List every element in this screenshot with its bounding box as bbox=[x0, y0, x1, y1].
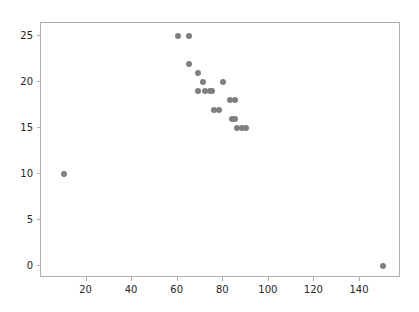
x-tick-mark bbox=[131, 277, 132, 281]
data-point bbox=[186, 61, 192, 67]
x-tick-mark bbox=[268, 277, 269, 281]
data-point bbox=[186, 33, 192, 39]
data-point bbox=[232, 97, 238, 103]
y-tick-label: 20 bbox=[20, 75, 33, 86]
data-points-layer bbox=[41, 23, 399, 276]
x-tick-label: 140 bbox=[349, 284, 368, 295]
data-point bbox=[243, 125, 249, 131]
y-tick-label: 25 bbox=[20, 29, 33, 40]
data-point bbox=[195, 70, 201, 76]
x-tick-label: 40 bbox=[125, 284, 138, 295]
data-point bbox=[209, 88, 215, 94]
x-tick-mark bbox=[177, 277, 178, 281]
data-point bbox=[195, 88, 201, 94]
y-tick-label: 10 bbox=[20, 167, 33, 178]
plot-area bbox=[40, 22, 400, 277]
x-tick-mark bbox=[313, 277, 314, 281]
x-tick-label: 120 bbox=[304, 284, 323, 295]
y-tick-label: 0 bbox=[27, 260, 33, 271]
x-tick-label: 80 bbox=[216, 284, 229, 295]
x-tick-label: 60 bbox=[170, 284, 183, 295]
y-tick-label: 5 bbox=[27, 214, 33, 225]
y-tick-label: 15 bbox=[20, 121, 33, 132]
x-tick-label: 100 bbox=[258, 284, 277, 295]
data-point bbox=[200, 79, 206, 85]
data-point bbox=[220, 79, 226, 85]
data-point bbox=[61, 171, 67, 177]
data-point bbox=[232, 116, 238, 122]
data-point bbox=[380, 263, 386, 269]
data-point bbox=[216, 107, 222, 113]
x-tick-mark bbox=[86, 277, 87, 281]
data-point bbox=[175, 33, 181, 39]
x-tick-mark bbox=[222, 277, 223, 281]
x-tick-mark bbox=[359, 277, 360, 281]
x-tick-label: 20 bbox=[79, 284, 92, 295]
scatter-plot-figure: 0510152025 20406080100120140 bbox=[0, 0, 419, 312]
